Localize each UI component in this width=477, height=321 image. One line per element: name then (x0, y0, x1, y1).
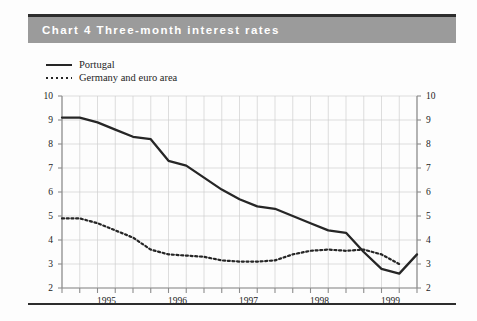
y-tick-label: 4 (426, 235, 431, 245)
y-tick-label: 8 (426, 139, 431, 149)
y-tick-label: 6 (426, 187, 431, 197)
y-tick-label: 2 (426, 283, 431, 293)
plot-svg: 2233445566778899101019951996199719981999 (0, 0, 477, 321)
y-tick-label: 4 (48, 235, 53, 245)
y-tick-label: 3 (426, 259, 431, 269)
plot-area: 2233445566778899101019951996199719981999 (0, 0, 477, 321)
y-tick-label: 8 (48, 139, 53, 149)
chart-figure: Chart 4 Three-month interest rates Portu… (0, 0, 477, 321)
y-tick-label: 5 (426, 211, 431, 221)
y-tick-label: 2 (48, 283, 53, 293)
series-line-germany-and-euro-area (62, 218, 399, 264)
grid-lines (62, 96, 417, 288)
y-tick-label: 7 (48, 163, 53, 173)
y-tick-label: 3 (48, 259, 53, 269)
y-tick-label: 9 (48, 115, 53, 125)
y-tick-label: 5 (48, 211, 53, 221)
bottom-rule (28, 303, 456, 305)
y-tick-label: 10 (44, 91, 54, 101)
y-tick-label: 9 (426, 115, 431, 125)
y-tick-label: 10 (426, 91, 436, 101)
y-tick-label: 7 (426, 163, 431, 173)
y-tick-label: 6 (48, 187, 53, 197)
